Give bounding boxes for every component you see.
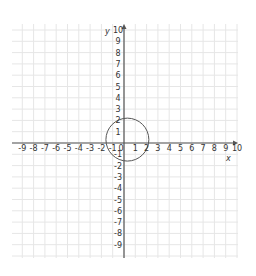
x-tick-label: 1	[133, 144, 138, 153]
coordinate-plane: -9-8-7-6-5-4-3-2-1012345678910 109876543…	[0, 0, 256, 276]
y-tick-label: 6	[115, 71, 120, 80]
y-tick-label: 9	[115, 37, 120, 46]
y-tick-label: 8	[115, 49, 120, 58]
x-tick-label: -2	[97, 144, 105, 153]
y-tick-label: -9	[114, 241, 122, 250]
y-tick-label: -1	[114, 150, 122, 159]
x-tick-label: 10	[232, 144, 242, 153]
axes	[12, 24, 238, 258]
y-tick-label: -3	[114, 173, 122, 182]
y-tick-label: -6	[114, 207, 122, 216]
y-tick-label: 2	[115, 116, 120, 125]
y-tick-label: -4	[114, 184, 122, 193]
y-tick-label: 3	[115, 105, 120, 114]
x-tick-label: 8	[212, 144, 217, 153]
y-axis-label: y	[104, 27, 110, 36]
grid-lines	[12, 24, 238, 258]
y-tick-label: 1	[115, 128, 120, 137]
y-tick-label: -5	[114, 196, 122, 205]
x-tick-label: 9	[223, 144, 228, 153]
x-tick-label: -4	[75, 144, 83, 153]
y-tick-label: 5	[115, 83, 120, 92]
x-tick-label: 3	[155, 144, 160, 153]
x-tick-label: -5	[64, 144, 72, 153]
x-tick-label: 7	[201, 144, 206, 153]
x-tick-label: 4	[167, 144, 172, 153]
x-tick-label: -3	[86, 144, 94, 153]
x-tick-label: 6	[189, 144, 194, 153]
y-tick-label: 10	[113, 26, 123, 35]
x-tick-label: 5	[178, 144, 183, 153]
x-tick-label: -9	[18, 144, 26, 153]
x-axis-label: x	[225, 154, 231, 163]
x-tick-label: 2	[144, 144, 149, 153]
y-tick-labels: 10987654321-1-2-3-4-5-6-7-8-9	[113, 26, 123, 250]
x-tick-label: -6	[52, 144, 60, 153]
y-tick-label: -7	[114, 218, 122, 227]
x-tick-label: -8	[30, 144, 38, 153]
y-tick-label: -8	[114, 229, 122, 238]
x-tick-label: -7	[41, 144, 49, 153]
y-tick-label: 7	[115, 60, 120, 69]
y-tick-label: 4	[115, 94, 120, 103]
x-tick-labels: -9-8-7-6-5-4-3-2-1012345678910	[18, 144, 242, 153]
y-tick-label: -2	[114, 162, 122, 171]
